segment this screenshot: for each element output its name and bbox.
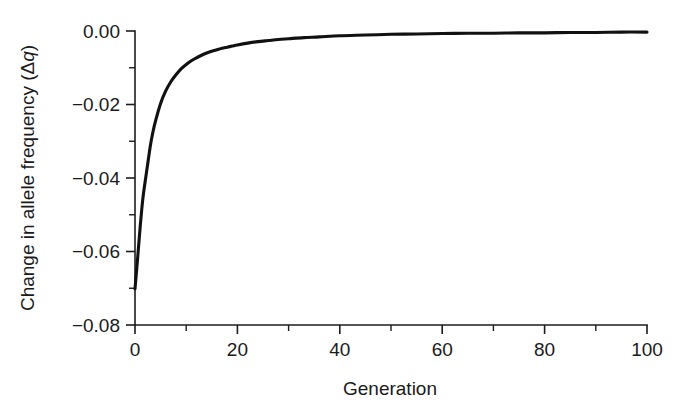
x-axis-tick-label: 20: [227, 339, 248, 360]
y-axis-tick-labels: 0.00−0.02−0.04−0.06−0.08: [72, 21, 121, 336]
y-axis-title-suffix: ): [17, 45, 38, 51]
y-axis-tick-label: −0.08: [72, 315, 120, 336]
y-axis-tick-label: −0.06: [72, 241, 120, 262]
y-axis-major-ticks: [126, 31, 135, 325]
chart-plot-area: 0.00−0.02−0.04−0.06−0.08 020406080100 Ge…: [0, 0, 689, 403]
x-axis-tick-label: 40: [329, 339, 350, 360]
x-axis-tick-labels: 020406080100: [130, 339, 663, 360]
y-axis-title-variable: q: [17, 51, 38, 62]
x-axis-title: Generation: [343, 378, 437, 399]
x-axis-tick-label: 60: [432, 339, 453, 360]
x-axis-tick-label: 100: [631, 339, 663, 360]
y-axis-tick-label: 0.00: [83, 21, 120, 42]
y-axis-title-prefix: Change in allele frequency (Δ: [17, 62, 38, 312]
x-axis-tick-label: 80: [534, 339, 555, 360]
y-axis-tick-label: −0.04: [72, 168, 121, 189]
x-axis-minor-ticks: [186, 325, 596, 331]
chart-figure: 0.00−0.02−0.04−0.06−0.08 020406080100 Ge…: [0, 0, 689, 403]
y-axis-tick-label: −0.02: [72, 94, 120, 115]
data-series-line: [135, 32, 647, 289]
y-axis-title: Change in allele frequency (Δq): [17, 45, 38, 311]
x-axis-tick-label: 0: [130, 339, 141, 360]
